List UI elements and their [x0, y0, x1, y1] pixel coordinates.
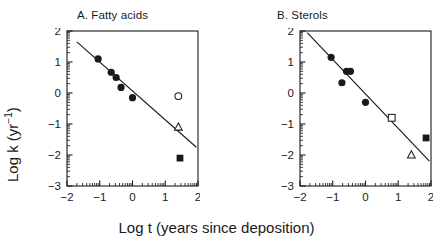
y-tick-label: −3: [281, 180, 294, 192]
x-axis-label: Log t (years since deposition): [0, 219, 433, 236]
y-axis-label-close: ): [4, 107, 21, 112]
panel-b-plot: −3−2−1012−2−1012: [233, 28, 433, 233]
marker-filled-circle: [338, 79, 345, 86]
x-tick-label: 1: [162, 191, 168, 203]
marker-filled-circle: [117, 84, 124, 91]
y-axis-label-main: Log k (yr: [4, 124, 21, 182]
axes-frame: [67, 31, 198, 186]
y-tick-label: −3: [48, 180, 61, 192]
y-axis-label-exponent: −1: [3, 112, 14, 123]
x-tick-label: −2: [60, 191, 73, 203]
marker-filled-circle: [129, 94, 136, 101]
figure-root: A. Fatty acids −3−2−1012−2−1012 B. Stero…: [0, 0, 433, 251]
y-tick-label: 2: [288, 28, 294, 37]
x-tick-label: −1: [93, 191, 106, 203]
marker-filled-circle: [347, 68, 354, 75]
y-tick-label: −2: [281, 149, 294, 161]
y-tick-label: −1: [281, 118, 294, 130]
panel-a-plot: −3−2−1012−2−1012: [0, 28, 200, 233]
panel-a-title: A. Fatty acids: [77, 9, 148, 21]
x-tick-label: 0: [362, 191, 368, 203]
marker-filled-circle: [95, 55, 102, 62]
marker-filled-square: [177, 155, 184, 162]
x-tick-label: −2: [293, 191, 306, 203]
x-tick-label: 2: [195, 191, 200, 203]
marker-filled-square: [423, 135, 430, 142]
y-tick-label: 1: [288, 56, 294, 68]
y-tick-label: 0: [55, 87, 61, 99]
marker-filled-circle: [362, 99, 369, 106]
marker-filled-circle: [113, 74, 120, 81]
axes-frame: [300, 31, 431, 186]
marker-open-square: [388, 114, 395, 121]
x-tick-label: 0: [129, 191, 135, 203]
x-tick-label: 1: [395, 191, 401, 203]
marker-filled-circle: [328, 54, 335, 61]
data-markers: [95, 55, 184, 161]
x-tick-label: −1: [326, 191, 339, 203]
y-tick-label: −2: [48, 149, 61, 161]
y-tick-label: 2: [55, 28, 61, 37]
regression-line: [307, 33, 429, 162]
y-tick-label: −1: [48, 118, 61, 130]
marker-filled-circle: [108, 69, 115, 76]
marker-open-triangle: [174, 123, 182, 130]
y-tick-label: 1: [55, 56, 61, 68]
y-axis-label: Log k (yr−1): [4, 107, 21, 182]
marker-open-circle: [175, 93, 182, 100]
marker-open-triangle: [407, 151, 415, 158]
x-tick-label: 2: [428, 191, 433, 203]
y-tick-label: 0: [288, 87, 294, 99]
panel-b-title: B. Sterols: [277, 9, 328, 21]
